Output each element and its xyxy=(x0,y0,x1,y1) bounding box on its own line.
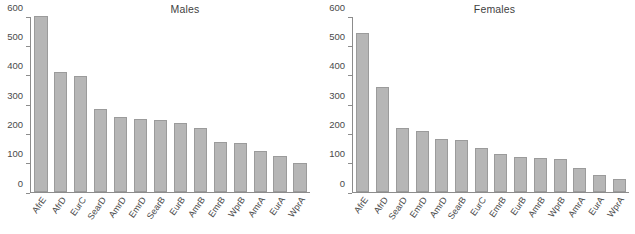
chart-panel-males: Males 0100200300400500600 AfrEAfrDEurCSe… xyxy=(0,0,318,234)
y-tick-label-females-1: 100 xyxy=(329,148,345,159)
bar-slot xyxy=(530,17,550,192)
y-tick-label-males-5: 500 xyxy=(7,30,23,41)
x-tick-label-text: EmrB xyxy=(206,195,227,219)
y-tick-males-0 xyxy=(26,193,30,194)
y-tick-females-2 xyxy=(348,134,352,135)
x-tick-slot: AfrD xyxy=(51,195,71,234)
bar-slot xyxy=(412,17,432,192)
bar-slot xyxy=(210,17,230,192)
bar-slot xyxy=(491,17,511,192)
x-tick-label-text: AmrA xyxy=(246,195,267,219)
y-tick-label-females-2: 200 xyxy=(329,118,345,129)
bar-slot xyxy=(270,17,290,192)
x-tick-slot: AmrA xyxy=(250,195,270,234)
bar-SearD[interactable] xyxy=(396,128,409,192)
bar-slot xyxy=(290,17,310,192)
bar-AfrE[interactable] xyxy=(356,33,369,192)
bar-slot xyxy=(111,17,131,192)
bar-group-females xyxy=(353,17,629,192)
y-tick-males-5 xyxy=(26,46,30,47)
x-tick-label-text: AmrB xyxy=(526,195,547,219)
y-tick-females-4 xyxy=(348,75,352,76)
y-tick-label-females-5: 500 xyxy=(329,30,345,41)
y-tick-label-females-3: 300 xyxy=(329,89,345,100)
bar-slot xyxy=(151,17,171,192)
bar-slot xyxy=(230,17,250,192)
x-tick-slot: AfrE xyxy=(353,195,373,234)
chart-panel-females: Females 0100200300400500600 AfrEAfrDSear… xyxy=(318,0,635,234)
bar-AfrD[interactable] xyxy=(376,87,389,192)
x-tick-slot: AfrE xyxy=(31,195,51,234)
y-tick-label-males-0: 0 xyxy=(18,177,23,188)
bar-slot xyxy=(170,17,190,192)
bar-slot xyxy=(51,17,71,192)
y-tick-females-0 xyxy=(348,193,352,194)
x-tick-label-text: WprA xyxy=(286,195,307,219)
bar-slot xyxy=(590,17,610,192)
x-tick-slot: AmrA xyxy=(570,195,590,234)
bar-slot xyxy=(250,17,270,192)
bar-slot xyxy=(609,17,629,192)
x-tick-slot: SearB xyxy=(452,195,472,234)
x-tick-slot: WprA xyxy=(290,195,310,234)
x-tick-slot: EmrB xyxy=(491,195,511,234)
plot-area-females: 0100200300400500600 xyxy=(352,17,629,193)
bar-slot xyxy=(392,17,412,192)
x-tick-label-text: WprB xyxy=(546,195,567,219)
bar-slot xyxy=(511,17,531,192)
x-tick-label-text: EmrB xyxy=(487,195,508,219)
y-tick-label-males-1: 100 xyxy=(7,148,23,159)
y-tick-females-6 xyxy=(348,17,352,18)
bar-slot xyxy=(353,17,373,192)
bar-slot xyxy=(570,17,590,192)
x-tick-label-group-females: AfrEAfrDSearDEmrDAmrDSearBEurCEmrBEurBAm… xyxy=(353,195,629,234)
plot-area-males: 0100200300400500600 xyxy=(30,17,310,193)
bar-slot xyxy=(432,17,452,192)
bar-slot xyxy=(31,17,51,192)
bar-slot xyxy=(131,17,151,192)
x-tick-label-text: AmrA xyxy=(566,195,587,219)
bar-slot xyxy=(373,17,393,192)
bar-AfrD[interactable] xyxy=(54,72,67,192)
x-tick-label-text: WprB xyxy=(226,195,247,219)
x-tick-slot: SearB xyxy=(151,195,171,234)
y-tick-females-1 xyxy=(348,163,352,164)
y-tick-label-females-4: 400 xyxy=(329,60,345,71)
y-tick-females-5 xyxy=(348,46,352,47)
bar-slot xyxy=(452,17,472,192)
y-tick-label-males-6: 600 xyxy=(7,1,23,12)
bar-slot xyxy=(190,17,210,192)
x-tick-label-text: AfrD xyxy=(50,195,69,215)
x-tick-label-text: AmrB xyxy=(186,195,207,219)
chart-title-females: Females xyxy=(318,3,635,15)
y-tick-males-1 xyxy=(26,163,30,164)
x-tick-label-text: AfrE xyxy=(352,195,370,215)
x-tick-label-text: WprA xyxy=(605,195,626,219)
bar-EurC[interactable] xyxy=(74,76,87,192)
y-tick-females-3 xyxy=(348,105,352,106)
x-tick-label-text: EurC xyxy=(468,195,488,218)
chart-title-males: Males xyxy=(0,3,344,15)
y-tick-label-males-3: 300 xyxy=(7,89,23,100)
x-tick-label-text: EurB xyxy=(168,195,188,217)
y-tick-males-4 xyxy=(26,75,30,76)
y-tick-males-6 xyxy=(26,17,30,18)
y-tick-label-males-4: 400 xyxy=(7,60,23,71)
y-tick-label-females-0: 0 xyxy=(340,177,345,188)
x-tick-label-text: EurA xyxy=(587,195,607,217)
bar-slot xyxy=(71,17,91,192)
y-tick-males-3 xyxy=(26,105,30,106)
y-tick-males-2 xyxy=(26,134,30,135)
bar-slot xyxy=(550,17,570,192)
x-tick-label-text: AfrE xyxy=(30,195,48,215)
bar-slot xyxy=(91,17,111,192)
bar-slot xyxy=(471,17,491,192)
two-panel-bar-chart-figure: Males 0100200300400500600 AfrEAfrDEurCSe… xyxy=(0,0,635,234)
x-tick-slot: WprA xyxy=(609,195,629,234)
x-tick-label-text: AfrD xyxy=(371,195,390,215)
bar-group-males xyxy=(31,17,310,192)
x-tick-label-text: EurB xyxy=(508,195,528,217)
x-tick-label-group-males: AfrEAfrDEurCSearDAmrDEmrDSearBEurBAmrBEm… xyxy=(31,195,310,234)
bar-SearD[interactable] xyxy=(94,109,107,192)
bar-AfrE[interactable] xyxy=(34,16,47,192)
